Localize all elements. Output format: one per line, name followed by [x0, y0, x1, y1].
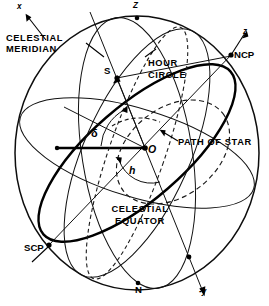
radius-to-star: [117, 78, 145, 148]
declination-label: δ: [91, 128, 98, 140]
declination-arc-arrowhead: [121, 106, 127, 113]
hour-circle-label-line1: HOUR: [148, 58, 178, 68]
observer-point-dot: [142, 145, 148, 151]
path-of-star-arrowhead: [160, 130, 166, 137]
celestial-equator-label-line1: CELESTIAL: [104, 204, 176, 214]
path-of-star-leader: [163, 132, 178, 141]
celestial-meridian-leader: [86, 43, 104, 57]
ncp-label: NCP: [234, 50, 254, 60]
celestial-meridian-label-line2: MERIDIAN: [6, 44, 57, 54]
scp-point-dot: [46, 242, 51, 247]
minus-y-axis-label: -y: [199, 288, 206, 297]
celestial-sphere-diagram: x Z z -y CELESTIAL MERIDIAN HOUR CIRCLE …: [0, 0, 269, 306]
star-arrow-tip-dot: [55, 146, 59, 150]
hour-angle-label: h: [129, 165, 135, 176]
observer-label: O: [148, 144, 156, 155]
star-label: S: [104, 66, 110, 76]
hour-angle-arc: [119, 160, 160, 183]
ncp-point-dot: [228, 52, 233, 57]
scp-label: SCP: [24, 243, 44, 253]
north-point-label: N: [135, 285, 142, 295]
z-axis-label: z: [243, 28, 247, 37]
celestial-equator-label-line2: EQUATOR: [104, 216, 176, 226]
hour-circle-leader: [145, 49, 156, 57]
hour-angle-arc-arrowhead-left: [115, 157, 121, 164]
hour-circle-label-line2: CIRCLE: [148, 70, 186, 80]
zenith-point-dot: [135, 16, 140, 21]
equator-horizon-node-dot: [187, 255, 192, 260]
zenith-label: Z: [133, 2, 138, 11]
x-axis-shaft: [64, 107, 145, 148]
path-of-star-label: PATH OF STAR: [178, 137, 252, 147]
x-axis-label: x: [17, 3, 22, 12]
celestial-meridian-label-line1: CELESTIAL: [6, 33, 63, 43]
